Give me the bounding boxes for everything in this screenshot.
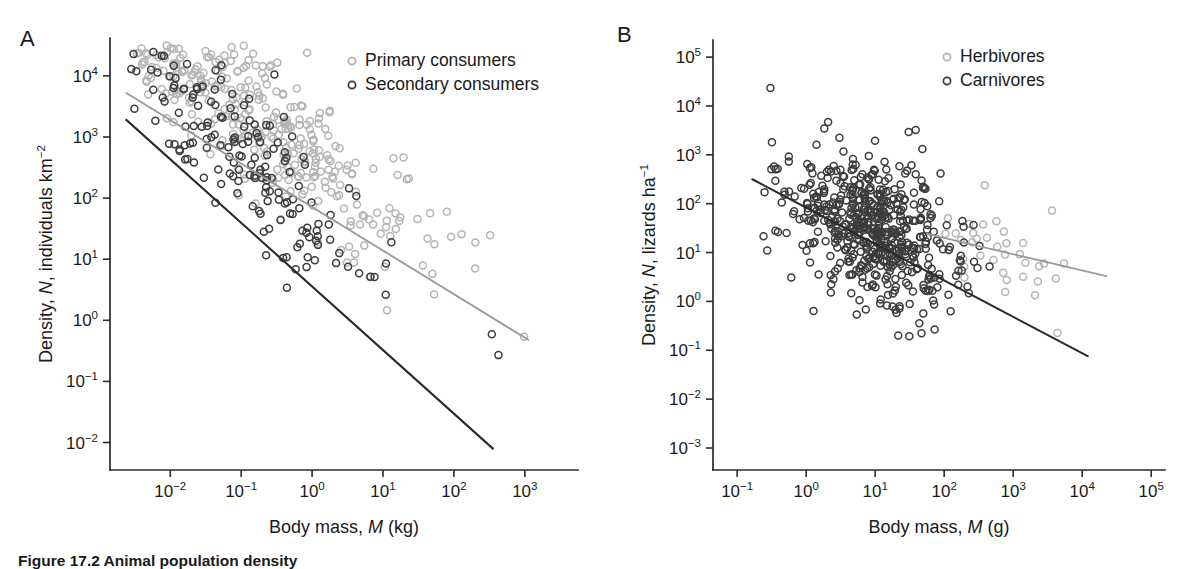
data-point bbox=[906, 301, 913, 308]
data-point bbox=[862, 306, 869, 313]
data-point bbox=[275, 196, 282, 203]
data-point bbox=[825, 118, 832, 125]
data-point bbox=[427, 210, 434, 217]
data-point bbox=[353, 192, 360, 199]
data-point bbox=[322, 125, 329, 132]
data-point bbox=[270, 145, 277, 152]
data-point bbox=[356, 270, 363, 277]
data-point bbox=[836, 134, 843, 141]
data-point bbox=[390, 155, 397, 162]
x-tick-label: 104 bbox=[1070, 480, 1096, 501]
data-point bbox=[488, 331, 495, 338]
data-point bbox=[839, 209, 846, 216]
x-tick-label: 102 bbox=[441, 480, 466, 501]
data-point bbox=[908, 162, 915, 169]
data-point bbox=[419, 262, 426, 269]
data-point bbox=[952, 230, 959, 237]
series-2-points bbox=[128, 49, 502, 359]
data-point bbox=[190, 122, 197, 129]
data-point bbox=[487, 232, 494, 239]
data-point bbox=[333, 260, 340, 267]
data-point bbox=[917, 206, 924, 213]
data-point bbox=[791, 193, 798, 200]
x-axis-title: Body mass, M (kg) bbox=[269, 517, 419, 537]
data-point bbox=[764, 247, 771, 254]
scatter-plot-a: 10−210−110010110210310410−210−1100101102… bbox=[0, 0, 600, 566]
data-point bbox=[386, 205, 393, 212]
data-point bbox=[942, 230, 949, 237]
data-point bbox=[760, 233, 767, 240]
regression-line-1 bbox=[927, 234, 1106, 276]
legend-marker-1 bbox=[943, 53, 950, 60]
data-point bbox=[273, 88, 280, 95]
data-point bbox=[234, 190, 241, 197]
data-point bbox=[296, 205, 303, 212]
data-point bbox=[974, 264, 981, 271]
y-tick-label: 10−2 bbox=[66, 432, 98, 453]
legend-label-1: Primary consumers bbox=[365, 50, 516, 70]
data-point bbox=[274, 59, 281, 66]
data-point bbox=[910, 189, 917, 196]
data-point bbox=[263, 252, 270, 259]
data-point bbox=[293, 85, 300, 92]
data-point bbox=[344, 162, 351, 169]
legend-label-2: Secondary consumers bbox=[365, 74, 539, 94]
data-point bbox=[274, 166, 281, 173]
data-point bbox=[906, 333, 913, 340]
data-point bbox=[327, 236, 334, 243]
data-point bbox=[916, 320, 923, 327]
x-tick-label: 10−1 bbox=[225, 480, 257, 501]
x-tick-label: 100 bbox=[299, 480, 324, 501]
x-tick-label: 102 bbox=[932, 480, 957, 501]
data-point bbox=[328, 189, 335, 196]
data-point bbox=[931, 301, 938, 308]
data-point bbox=[934, 284, 941, 291]
data-point bbox=[761, 189, 768, 196]
data-point bbox=[245, 77, 252, 84]
data-point bbox=[937, 170, 944, 177]
data-point bbox=[303, 174, 310, 181]
data-point bbox=[424, 235, 431, 242]
data-point bbox=[919, 146, 926, 153]
y-tick-label: 102 bbox=[676, 193, 701, 214]
data-point bbox=[788, 274, 795, 281]
data-point bbox=[1020, 240, 1027, 247]
data-point bbox=[980, 221, 987, 228]
data-point bbox=[240, 42, 247, 49]
data-point bbox=[346, 185, 353, 192]
data-point bbox=[382, 291, 389, 298]
data-point bbox=[263, 81, 270, 88]
data-point bbox=[981, 182, 988, 189]
data-point bbox=[317, 168, 324, 175]
data-point bbox=[931, 326, 938, 333]
data-point bbox=[947, 308, 954, 315]
y-tick-label: 10−3 bbox=[669, 437, 701, 458]
axes-layer: 10−310−210−110010110210310410510−1100101… bbox=[669, 40, 1165, 501]
data-point bbox=[264, 198, 271, 205]
data-point bbox=[346, 243, 353, 250]
axes-layer: 10−210−110010110210310410−210−1100101102… bbox=[66, 38, 578, 501]
data-point bbox=[943, 222, 950, 229]
data-point bbox=[768, 139, 775, 146]
y-tick-label: 100 bbox=[676, 290, 701, 311]
data-point bbox=[840, 148, 847, 155]
data-point bbox=[810, 308, 817, 315]
x-tick-label: 103 bbox=[512, 480, 537, 501]
data-point bbox=[325, 221, 332, 228]
data-point bbox=[356, 221, 363, 228]
x-tick-label: 100 bbox=[793, 480, 818, 501]
data-point bbox=[377, 230, 384, 237]
data-point bbox=[191, 159, 198, 166]
data-point bbox=[352, 251, 359, 258]
data-point bbox=[783, 229, 790, 236]
data-point bbox=[767, 84, 774, 91]
data-point bbox=[259, 63, 266, 70]
data-point bbox=[431, 241, 438, 248]
y-tick-label: 10−1 bbox=[669, 339, 701, 360]
data-point bbox=[340, 205, 347, 212]
data-point bbox=[772, 177, 779, 184]
data-point bbox=[881, 158, 888, 165]
data-point bbox=[912, 126, 919, 133]
data-point bbox=[1003, 240, 1010, 247]
